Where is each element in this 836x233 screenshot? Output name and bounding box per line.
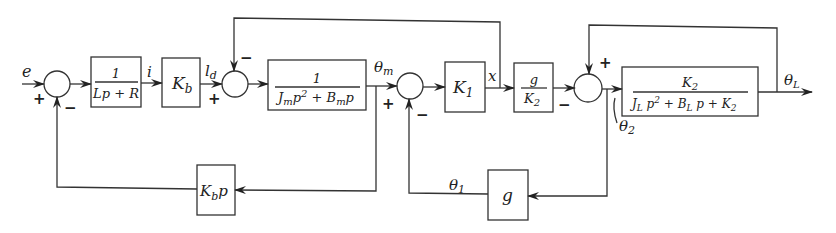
gear-label: g xyxy=(502,185,513,205)
summing-junction-3 xyxy=(397,73,423,99)
kb-label: Kb xyxy=(171,73,192,96)
motor-num: 1 xyxy=(313,71,321,86)
thetam-branch-line xyxy=(235,86,376,191)
summing-junction-1 xyxy=(44,71,70,97)
load-den: JL p2 + BL p + K2 xyxy=(629,95,737,113)
electrical-den: Lp + R xyxy=(92,86,139,101)
sum3-minus-sign: − xyxy=(416,106,429,124)
gk2-num: g xyxy=(530,72,538,87)
signal-e: e xyxy=(22,62,31,81)
block-diagram: e i ld θm x θ1 θ2 θL 1 Lp + R Kb 1 Jmp2 … xyxy=(0,0,836,233)
signal-i: i xyxy=(147,63,152,81)
k1-label: K1 xyxy=(452,77,473,100)
diagram-svg: e i ld θm x θ1 θ2 θL 1 Lp + R Kb 1 Jmp2 … xyxy=(0,0,836,233)
signal-theta-1: θ1 xyxy=(449,176,465,196)
theta2-pointer xyxy=(614,98,617,123)
signal-theta-L: θL xyxy=(784,71,800,90)
back-emf-label: Kbp xyxy=(199,182,228,203)
gk2-den: K2 xyxy=(523,91,540,108)
sum4-plus-sign: + xyxy=(599,54,612,72)
motor-den: Jmp2 + Bmp xyxy=(275,88,355,107)
signal-theta-m: θm xyxy=(374,58,393,78)
sum3-plus-sign: + xyxy=(382,95,395,113)
summing-junction-4 xyxy=(574,74,602,102)
sum4-minus-sign: − xyxy=(558,96,571,114)
electrical-num: 1 xyxy=(112,66,120,81)
sum1-minus-sign: − xyxy=(64,99,77,117)
back-emf-feedback-line xyxy=(57,97,197,189)
sum2-plus-sign: + xyxy=(208,90,221,108)
sum1-plus-sign: + xyxy=(33,90,46,108)
signal-ld: ld xyxy=(205,62,217,82)
signal-theta-2: θ2 xyxy=(619,117,635,137)
summing-junction-2 xyxy=(222,71,248,97)
signal-x: x xyxy=(488,67,497,85)
load-num: K2 xyxy=(681,75,698,92)
sum2-minus-sign: − xyxy=(240,49,253,67)
